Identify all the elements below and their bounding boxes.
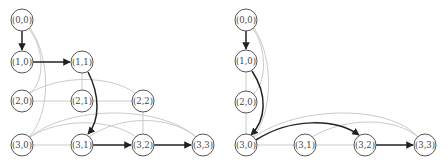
left-graph: (0,0) (1,0) (1,1) (2,0) (2,1) (2,2) (3,0… bbox=[11, 9, 214, 156]
right-bold-path bbox=[246, 31, 413, 145]
node-label: (3,1) bbox=[295, 140, 315, 150]
node-3-2: (3,2) bbox=[132, 134, 154, 156]
node-label: (2,0) bbox=[236, 97, 256, 107]
node-label: (3,2) bbox=[355, 140, 375, 150]
left-light-edges bbox=[29, 28, 196, 145]
node-label: (3,1) bbox=[72, 140, 92, 150]
node-2-0: (2,0) bbox=[11, 90, 33, 112]
node-label: (3,3) bbox=[415, 140, 435, 150]
node-3-1: (3,1) bbox=[71, 134, 93, 156]
node-label: (0,0) bbox=[12, 15, 32, 25]
node-label: (3,2) bbox=[133, 140, 153, 150]
node-1-0: (1,0) bbox=[235, 50, 257, 72]
node-label: (1,0) bbox=[236, 56, 256, 66]
node-label: (2,0) bbox=[12, 96, 32, 106]
node-2-1: (2,1) bbox=[71, 90, 93, 112]
diagram-canvas: (0,0) (1,0) (1,1) (2,0) (2,1) (2,2) (3,0… bbox=[0, 0, 448, 166]
node-label: (1,1) bbox=[72, 57, 92, 67]
node-3-3: (3,3) bbox=[414, 134, 436, 156]
node-label: (2,2) bbox=[133, 96, 153, 106]
node-label: (2,1) bbox=[72, 96, 92, 106]
node-2-2: (2,2) bbox=[132, 90, 154, 112]
node-3-2: (3,2) bbox=[354, 134, 376, 156]
node-1-1: (1,1) bbox=[71, 51, 93, 73]
node-label: (1,0) bbox=[12, 57, 32, 67]
right-graph: (0,0) (1,0) (2,0) (3,0) (3,1) (3,2) (3,3… bbox=[235, 9, 436, 156]
node-1-0: (1,0) bbox=[11, 51, 33, 73]
node-3-0: (3,0) bbox=[11, 134, 33, 156]
node-3-0: (3,0) bbox=[235, 134, 257, 156]
node-2-0: (2,0) bbox=[235, 91, 257, 113]
node-label: (3,3) bbox=[193, 140, 213, 150]
right-light-edges bbox=[246, 28, 418, 145]
node-label: (0,0) bbox=[236, 15, 256, 25]
node-label: (3,0) bbox=[12, 140, 32, 150]
node-3-1: (3,1) bbox=[294, 134, 316, 156]
node-label: (3,0) bbox=[236, 140, 256, 150]
node-3-3: (3,3) bbox=[192, 134, 214, 156]
node-0-0: (0,0) bbox=[235, 9, 257, 31]
node-0-0: (0,0) bbox=[11, 9, 33, 31]
